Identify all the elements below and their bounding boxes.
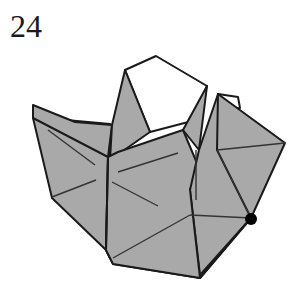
origami-diagram (0, 0, 299, 308)
marker-dot (245, 213, 257, 225)
left-wing (33, 105, 112, 250)
